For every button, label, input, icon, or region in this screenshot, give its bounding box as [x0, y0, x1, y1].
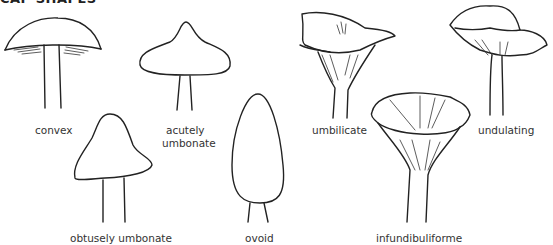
label-ovoid: ovoid: [245, 232, 274, 245]
convex-mushroom-icon: [5, 18, 101, 108]
label-infundibuliforme: infundibuliforme: [376, 232, 462, 245]
label-undulating: undulating: [478, 124, 534, 137]
obtusely-umbonate-mushroom-icon: [75, 114, 152, 222]
ovoid-mushroom-icon: [232, 94, 284, 222]
label-umbilicate: umbilicate: [312, 124, 367, 137]
label-convex: convex: [35, 124, 73, 137]
label-acutely-umbonate-line1: acutely: [166, 124, 205, 137]
umbilicate-mushroom-icon: [300, 13, 395, 118]
infundibuliforme-mushroom-icon: [371, 93, 470, 222]
label-acutely-umbonate-line2: umbonate: [162, 137, 216, 150]
acutely-umbonate-mushroom-icon: [140, 22, 230, 110]
undulating-mushroom-icon: [450, 6, 547, 115]
label-obtusely-umbonate: obtusely umbonate: [70, 232, 172, 245]
